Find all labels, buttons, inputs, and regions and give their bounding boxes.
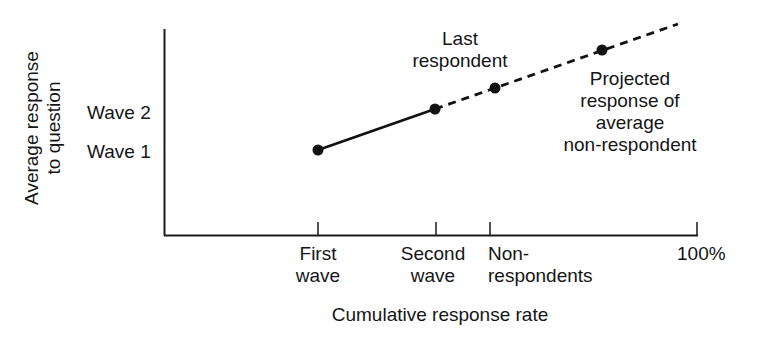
annotation-last-respondent: Last respondent xyxy=(390,28,530,72)
x-tick-label-second-wave: Second wave xyxy=(393,243,473,287)
annotation-projected-response: Projected response of average non-respon… xyxy=(540,68,720,156)
chart-canvas xyxy=(0,0,760,348)
y-tick-wave-2: Wave 2 xyxy=(87,102,151,124)
observed-line xyxy=(318,109,435,150)
point-first-wave xyxy=(313,145,324,156)
x-tick-label-non-respondents-line2: respondents xyxy=(488,265,593,287)
point-projected-nonrespondent xyxy=(597,45,608,56)
annotation-last-respondent-line2: respondent xyxy=(390,50,530,72)
x-tick-label-second-wave-line2: wave xyxy=(393,265,473,287)
x-tick-label-non-respondents-line1: Non- xyxy=(488,243,593,265)
point-last-respondent xyxy=(490,83,501,94)
annotation-last-respondent-line1: Last xyxy=(390,28,530,50)
x-tick-label-second-wave-line1: Second xyxy=(393,243,473,265)
annotation-projected-line3: average xyxy=(540,112,720,134)
x-tick-label-first-wave-line1: First xyxy=(288,243,348,265)
x-tick-label-non-respondents: Non- respondents xyxy=(488,243,593,287)
y-tick-wave-1: Wave 1 xyxy=(87,141,151,163)
annotation-projected-line1: Projected xyxy=(540,68,720,90)
point-second-wave xyxy=(430,104,441,115)
x-tick-label-100: 100% xyxy=(677,243,726,265)
y-axis-label-line2: to question xyxy=(43,28,65,228)
x-tick-label-first-wave-line2: wave xyxy=(288,265,348,287)
annotation-projected-line2: response of xyxy=(540,90,720,112)
y-axis-label-line1: Average response xyxy=(21,28,43,228)
y-axis-label: Average response to question xyxy=(21,28,65,228)
x-tick-label-first-wave: First wave xyxy=(288,243,348,287)
x-axis-label: Cumulative response rate xyxy=(290,304,590,326)
annotation-projected-line4: non-respondent xyxy=(540,134,720,156)
